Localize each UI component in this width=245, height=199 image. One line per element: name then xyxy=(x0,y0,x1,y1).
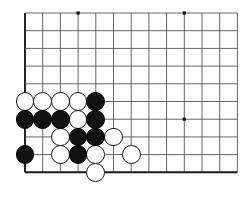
star-point xyxy=(183,118,186,121)
white-stone[interactable] xyxy=(51,128,70,147)
star-point xyxy=(183,11,186,14)
black-stone[interactable] xyxy=(86,110,105,129)
white-stone[interactable] xyxy=(104,128,123,147)
black-stone[interactable] xyxy=(86,92,105,111)
white-stone[interactable] xyxy=(86,163,105,182)
black-stone[interactable] xyxy=(16,110,35,129)
black-stone[interactable] xyxy=(51,110,70,129)
white-stone[interactable] xyxy=(51,92,70,111)
black-stone[interactable] xyxy=(16,145,35,164)
white-stone[interactable] xyxy=(16,92,35,111)
go-board-diagram xyxy=(0,0,245,199)
white-stone[interactable] xyxy=(122,145,141,164)
star-point xyxy=(77,11,80,14)
white-stone[interactable] xyxy=(69,110,88,129)
white-stone[interactable] xyxy=(51,145,70,164)
black-stone[interactable] xyxy=(33,110,52,129)
white-stone[interactable] xyxy=(33,92,52,111)
